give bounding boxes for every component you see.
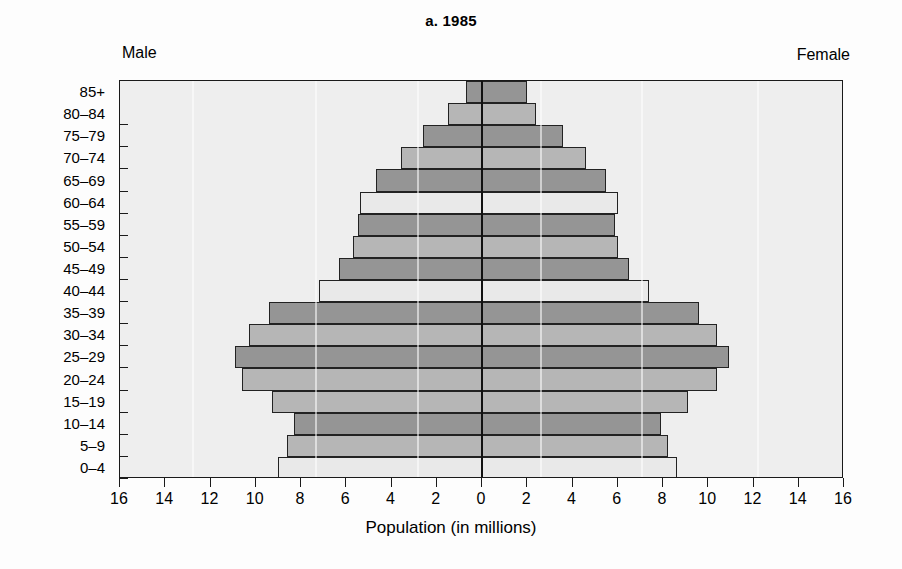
y-axis-tick-label: 75–79 [63, 128, 105, 143]
x-axis-tick-mark [255, 478, 256, 487]
y-axis-tick-label: 40–44 [63, 283, 105, 298]
bar-male [448, 103, 483, 125]
y-axis-tick-label: 0–4 [80, 460, 105, 475]
x-axis-tick-mark [707, 478, 708, 487]
paper-band [417, 81, 419, 477]
y-axis-tick-label: 80–84 [63, 106, 105, 121]
bar-female [481, 192, 618, 214]
paper-band [192, 81, 194, 477]
x-axis-tick-mark [436, 478, 437, 487]
paper-band [540, 81, 542, 477]
bar-female [481, 280, 650, 302]
paper-band [757, 81, 759, 477]
y-axis-tick-label: 20–24 [63, 372, 105, 387]
x-axis-tick-label: 16 [110, 490, 128, 508]
y-axis-tick-label: 25–29 [63, 349, 105, 364]
x-axis-tick-label: 12 [744, 490, 762, 508]
y-axis-tick-mark [119, 191, 128, 192]
x-axis-tick-mark [345, 478, 346, 487]
y-axis-tick-mark [119, 390, 128, 391]
x-axis-tick-mark [481, 478, 482, 487]
y-axis-tick-mark [119, 434, 128, 435]
y-axis-tick-mark [119, 301, 128, 302]
x-axis-tick-label: 10 [698, 490, 716, 508]
x-axis-tick-label: 6 [612, 490, 621, 508]
x-axis-tick-label: 4 [567, 490, 576, 508]
bar-male [294, 413, 483, 435]
x-axis-tick-label: 12 [201, 490, 219, 508]
page-title: a. 1985 [0, 12, 902, 29]
y-axis-tick-label: 55–59 [63, 217, 105, 232]
bar-female [481, 125, 564, 147]
x-axis-title: Population (in millions) [0, 518, 902, 538]
bar-female [481, 236, 618, 258]
y-axis-tick-label: 50–54 [63, 239, 105, 254]
y-axis-tick-mark [119, 279, 128, 280]
y-axis-tick-mark [119, 213, 128, 214]
y-axis-tick-mark [119, 456, 128, 457]
bar-female [481, 214, 616, 236]
y-axis-tick-mark [119, 168, 128, 169]
y-axis-tick-label: 60–64 [63, 195, 105, 210]
y-axis-tick-label: 5–9 [80, 438, 105, 453]
bar-male [235, 346, 483, 368]
x-axis-tick-label: 14 [789, 490, 807, 508]
bar-female [481, 457, 677, 478]
x-axis-tick-mark [572, 478, 573, 487]
female-series-label: Female [797, 46, 850, 64]
y-axis-tick-label: 70–74 [63, 150, 105, 165]
x-axis-tick-mark [119, 478, 120, 487]
x-axis-tick-mark [526, 478, 527, 487]
x-axis-tick-label: 16 [834, 490, 852, 508]
y-axis-tick-mark [119, 412, 128, 413]
x-axis-tick-mark [164, 478, 165, 487]
y-axis-tick-label: 10–14 [63, 416, 105, 431]
paper-band [315, 81, 317, 477]
bar-female [481, 169, 607, 191]
bar-female [481, 258, 629, 280]
x-axis-tick-label: 10 [246, 490, 264, 508]
figure-root: a. 1985 Male Female 0–45–910–1415–1920–2… [0, 0, 902, 569]
bar-female [481, 302, 699, 324]
x-axis-tick-mark [798, 478, 799, 487]
y-axis-tick-label: 30–34 [63, 327, 105, 342]
y-axis-tick-mark [119, 257, 128, 258]
bar-male [401, 147, 484, 169]
y-axis-tick-mark [119, 478, 128, 479]
x-axis-tick-label: 2 [522, 490, 531, 508]
bar-female [481, 435, 668, 457]
y-axis-tick-mark [119, 367, 128, 368]
bar-male [249, 324, 483, 346]
y-axis-tick-mark [119, 124, 128, 125]
x-axis-tick-label: 14 [155, 490, 173, 508]
bar-male [376, 169, 484, 191]
y-axis-tick-label: 35–39 [63, 305, 105, 320]
bar-male [269, 302, 483, 324]
y-axis-tick-label: 45–49 [63, 261, 105, 276]
x-axis-tick-mark [662, 478, 663, 487]
plot-area [119, 80, 843, 478]
bar-female [481, 324, 718, 346]
x-axis-tick-label: 8 [296, 490, 305, 508]
x-axis-tick-mark [843, 478, 844, 487]
bar-female [481, 391, 688, 413]
y-axis-tick-label: 65–69 [63, 173, 105, 188]
y-axis: 0–45–910–1415–1920–2425–2930–3435–3940–4… [0, 80, 113, 478]
x-axis-tick-label: 0 [477, 490, 486, 508]
x-axis-tick-mark [753, 478, 754, 487]
bar-female [481, 413, 661, 435]
bar-male [360, 192, 483, 214]
y-axis-tick-label: 15–19 [63, 394, 105, 409]
x-axis-tick-mark [617, 478, 618, 487]
y-axis-tick-label: 85+ [80, 84, 105, 99]
center-axis-line [481, 81, 483, 477]
bar-female [481, 103, 537, 125]
bar-male [278, 457, 483, 478]
paper-band [641, 81, 643, 477]
bar-male [272, 391, 484, 413]
x-axis-tick-label: 2 [431, 490, 440, 508]
x-axis-tick-label: 4 [386, 490, 395, 508]
x-axis-tick-mark [391, 478, 392, 487]
bar-female [481, 346, 729, 368]
bar-male [423, 125, 483, 147]
